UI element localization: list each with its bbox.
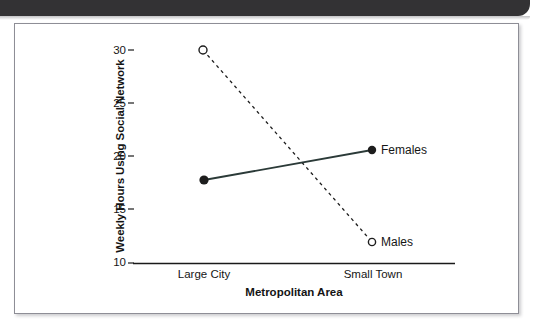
x-tick-label-large-city: Large City bbox=[164, 268, 244, 280]
figure-panel bbox=[14, 23, 519, 314]
y-tick-label-10: 10 bbox=[98, 256, 126, 268]
y-tick-label-25: 25 bbox=[98, 97, 126, 109]
figure-screenshot: Weekly Hours Using Social Network 30 25 … bbox=[0, 0, 537, 327]
y-tick-label-20: 20 bbox=[98, 150, 126, 162]
y-tick-label-30: 30 bbox=[98, 44, 126, 56]
banner-shadow bbox=[0, 16, 530, 20]
x-axis-title: Metropolitan Area bbox=[133, 286, 455, 298]
x-tick-label-small-town: Small Town bbox=[333, 268, 413, 280]
top-dark-banner bbox=[0, 0, 530, 16]
series-label-males: Males bbox=[381, 235, 413, 249]
series-label-females: Females bbox=[381, 143, 427, 157]
y-tick-label-15: 15 bbox=[98, 203, 126, 215]
